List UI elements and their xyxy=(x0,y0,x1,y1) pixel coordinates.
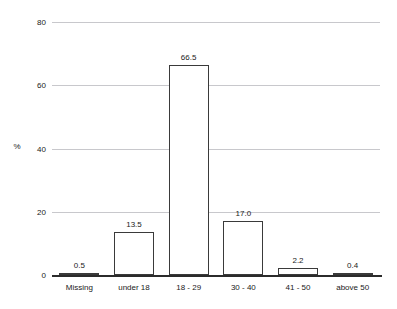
plot-area: 0.513.566.517.02.20.4 xyxy=(52,22,380,275)
bar-value-label: 2.2 xyxy=(292,256,303,265)
bar-value-label: 0.4 xyxy=(347,261,358,270)
x-axis-category-label: under 18 xyxy=(107,282,162,293)
bar-rect xyxy=(223,221,263,275)
bar-rect xyxy=(114,232,154,275)
gridline xyxy=(52,149,380,150)
bar[interactable]: 13.5 xyxy=(114,22,154,275)
x-axis-category-label: Missing xyxy=(52,282,107,293)
bar[interactable]: 0.4 xyxy=(333,22,373,275)
bar-rect xyxy=(278,268,318,275)
gridline xyxy=(52,22,380,23)
bar[interactable]: 2.2 xyxy=(278,22,318,275)
y-axis-tick-label: 40 xyxy=(20,145,46,154)
bar-rect xyxy=(169,65,209,275)
gridline xyxy=(52,85,380,86)
bar[interactable]: 66.5 xyxy=(169,22,209,275)
y-axis-tick-label: 80 xyxy=(20,18,46,27)
y-axis-tick-label: 20 xyxy=(20,208,46,217)
x-axis-baseline xyxy=(52,275,382,277)
gridline xyxy=(52,212,380,213)
bar-value-label: 66.5 xyxy=(181,53,197,62)
bar-value-label: 17.0 xyxy=(236,209,252,218)
bar-chart: % 020406080 0.513.566.517.02.20.4 Missin… xyxy=(0,0,397,309)
y-axis-tick-labels: 020406080 xyxy=(16,22,46,275)
x-axis-category-label: 41 - 50 xyxy=(271,282,326,293)
x-axis-category-label: above 50 xyxy=(325,282,380,293)
y-axis-tick-label: 60 xyxy=(20,81,46,90)
bar[interactable]: 17.0 xyxy=(223,22,263,275)
y-axis-tick-label: 0 xyxy=(20,271,46,280)
x-axis-category-labels: Missingunder 1818 - 2930 - 4041 - 50abov… xyxy=(52,282,382,296)
x-axis-category-label: 30 - 40 xyxy=(216,282,271,293)
bar-value-label: 13.5 xyxy=(126,220,142,229)
bar[interactable]: 0.5 xyxy=(59,22,99,275)
bar-value-label: 0.5 xyxy=(74,261,85,270)
x-axis-category-label: 18 - 29 xyxy=(161,282,216,293)
